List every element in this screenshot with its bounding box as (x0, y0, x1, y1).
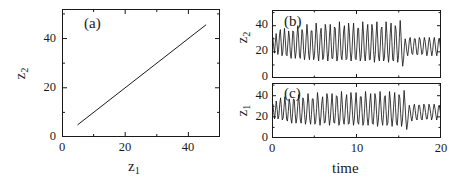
panel-a-xaxis-title-sub: 1 (135, 165, 140, 176)
panel-a-xtick-label-0: 0 (51, 141, 73, 154)
panel-a-yaxis-title-sub: 2 (18, 68, 29, 73)
panel-a-xaxis-title: z1 (128, 159, 140, 174)
panel-a-xtick-label-40: 40 (177, 141, 199, 154)
panel-a-yaxis-title-text: z (12, 73, 28, 80)
panel-a-ytick-label-40: 40 (30, 32, 56, 45)
panel-c-yaxis-title: z1 (235, 91, 250, 131)
panel-c-label: (c) (284, 86, 301, 101)
panel-a-xaxis-title-text: z (128, 158, 135, 174)
panel-c-xtick-label-20: 20 (430, 142, 452, 155)
figure-container: (a) 0 20 40 0 20 40 z2 z1 (b) 0 20 40 z2… (0, 0, 466, 183)
panel-c-yaxis-title-sub: 1 (240, 105, 251, 110)
panel-c-xtick-label-0: 0 (261, 142, 283, 155)
panel-b-label: (b) (284, 14, 302, 29)
panel-c-xaxis-title: time (332, 161, 359, 176)
panel-b-ytick-label-0: 0 (244, 70, 268, 83)
panel-c-xtick-label-10: 10 (346, 142, 368, 155)
panel-b-yaxis-title-text: z (234, 37, 250, 44)
panel-b-yaxis-title-sub: 2 (240, 32, 251, 37)
panel-a-yaxis-title: z2 (13, 53, 28, 95)
panel-a-xtick-label-20: 20 (114, 141, 136, 154)
panel-c-yaxis-title-text: z (234, 110, 250, 117)
panel-a-label: (a) (84, 16, 101, 31)
panel-b-yaxis-title: z2 (235, 18, 250, 58)
panel-a-ytick-label-20: 20 (30, 81, 56, 94)
